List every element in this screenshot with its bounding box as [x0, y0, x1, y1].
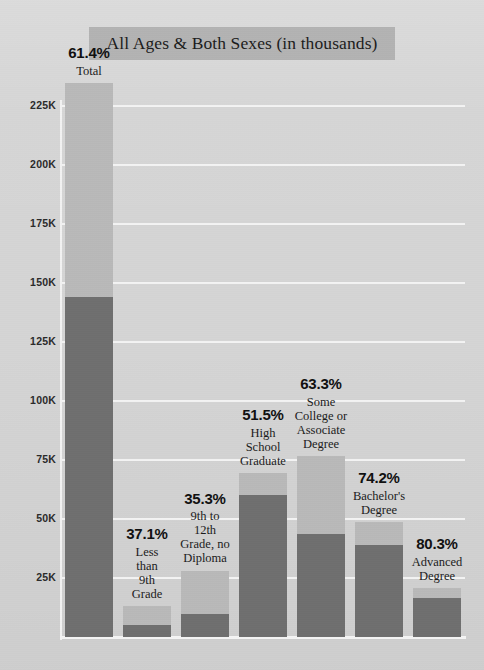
bar-label: 63.3%SomeCollege orAssociateDegree	[273, 376, 369, 451]
bar-category-label: Associate	[273, 423, 369, 437]
y-axis-tick-label: 100K	[10, 394, 56, 406]
bar-segment-dark	[239, 495, 287, 637]
bar-segment-light	[181, 571, 229, 614]
bar[interactable]	[239, 473, 287, 637]
bar-label: 61.4%Total	[41, 45, 137, 78]
bar-category-label: Total	[41, 64, 137, 78]
y-axis-tick-label: 200K	[10, 158, 56, 170]
y-axis-tick-label: 125K	[10, 335, 56, 347]
y-axis-tick: 25K	[0, 571, 56, 585]
gridline	[62, 164, 465, 166]
y-axis-tick: 75K	[0, 453, 56, 467]
bar-category-label: College or	[273, 409, 369, 423]
y-axis-tick-label: 75K	[10, 453, 56, 465]
chart-page: All Ages & Both Sexes (in thousands) 225…	[0, 0, 484, 670]
y-axis-tick-label: 50K	[10, 512, 56, 524]
y-axis-tick: 200K	[0, 158, 56, 172]
y-axis-tick-label: 225K	[10, 99, 56, 111]
y-axis-line	[60, 100, 62, 640]
bar-percent-label: 80.3%	[389, 536, 484, 553]
bar-percent-label: 61.4%	[41, 45, 137, 62]
gridline	[62, 105, 465, 107]
y-axis-tick: 125K	[0, 335, 56, 349]
bar-label: 74.2%Bachelor'sDegree	[331, 470, 427, 517]
plot-area: 225K200K175K150K125K100K75K50K25K61.4%To…	[0, 0, 484, 670]
bar-segment-dark	[181, 614, 229, 637]
gridline	[62, 341, 465, 343]
bar-segment-light	[413, 588, 461, 597]
y-axis-tick-label: 25K	[10, 571, 56, 583]
y-axis-tick: 175K	[0, 217, 56, 231]
bar-segment-dark	[123, 625, 171, 637]
y-axis-tick: 225K	[0, 99, 56, 113]
bar-category-label: Bachelor's	[331, 489, 427, 503]
bar-segment-light	[65, 83, 113, 297]
bar-category-label: Degree	[331, 503, 427, 517]
bar[interactable]	[123, 606, 171, 637]
bar-category-label: Advanced	[389, 555, 484, 569]
bar-percent-label: 74.2%	[331, 470, 427, 487]
bar-category-label: Degree	[273, 437, 369, 451]
y-axis-tick-label: 150K	[10, 276, 56, 288]
bar[interactable]	[181, 571, 229, 637]
y-axis-tick: 50K	[0, 512, 56, 526]
bar-segment-dark	[297, 534, 345, 637]
gridline	[62, 400, 465, 402]
bar-segment-dark	[413, 598, 461, 637]
y-axis-tick-label: 175K	[10, 217, 56, 229]
bar-segment-light	[123, 606, 171, 626]
bar-segment-light	[239, 473, 287, 494]
gridline	[62, 223, 465, 225]
bar-category-label: Degree	[389, 569, 484, 583]
bar-label: 80.3%AdvancedDegree	[389, 536, 484, 583]
y-axis-tick: 150K	[0, 276, 56, 290]
gridline	[62, 282, 465, 284]
bar[interactable]	[413, 588, 461, 637]
bar-category-label: Some	[273, 395, 369, 409]
y-axis-tick: 100K	[0, 394, 56, 408]
bar-percent-label: 63.3%	[273, 376, 369, 393]
